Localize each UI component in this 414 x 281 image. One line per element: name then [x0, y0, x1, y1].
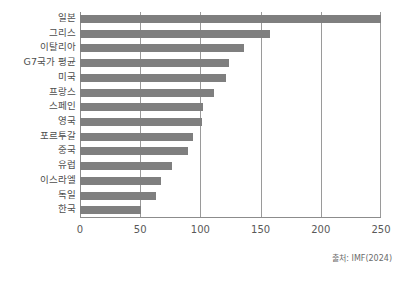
- category-label: 일본: [0, 12, 76, 23]
- category-label: 독일: [0, 189, 76, 200]
- category-label: 이스라엘: [0, 174, 76, 185]
- bar-uk: [80, 118, 202, 126]
- category-label: 이탈리아: [0, 41, 76, 52]
- x-tick-label-100: 100: [191, 223, 210, 236]
- bar-series: [80, 12, 381, 218]
- source-note: 출처: IMF(2024): [332, 253, 392, 264]
- bar-japan: [80, 15, 381, 23]
- bar-row: [80, 27, 381, 42]
- bar-usa: [80, 74, 226, 82]
- bar-row: [80, 159, 381, 174]
- bar-row: [80, 189, 381, 204]
- category-axis-labels: 일본 그리스 이탈리아 G7국가 평균 미국 프랑스 스페인 영국 포르투갈 중…: [0, 12, 76, 218]
- bar-row: [80, 130, 381, 145]
- x-tick-label-0: 0: [77, 223, 83, 236]
- bar-korea: [80, 206, 141, 214]
- bar-germany: [80, 192, 156, 200]
- category-label: 한국: [0, 203, 76, 214]
- bar-italy: [80, 44, 244, 52]
- bar-row: [80, 41, 381, 56]
- x-tick-label-200: 200: [311, 223, 330, 236]
- category-label: 그리스: [0, 27, 76, 38]
- category-label: 영국: [0, 115, 76, 126]
- category-label: 유럽: [0, 159, 76, 170]
- bar-portugal: [80, 133, 193, 141]
- bar-row: [80, 115, 381, 130]
- bar-israel: [80, 177, 161, 185]
- x-tick-label-150: 150: [251, 223, 270, 236]
- bar-row: [80, 71, 381, 86]
- bar-chart: 일본 그리스 이탈리아 G7국가 평균 미국 프랑스 스페인 영국 포르투갈 중…: [0, 0, 414, 281]
- bar-greece: [80, 30, 270, 38]
- bar-g7-average: [80, 59, 229, 67]
- category-label: 중국: [0, 144, 76, 155]
- plot-area: [80, 12, 381, 218]
- category-label: 스페인: [0, 100, 76, 111]
- bar-row: [80, 203, 381, 218]
- category-label: 프랑스: [0, 86, 76, 97]
- x-tick-label-250: 250: [371, 223, 390, 236]
- bar-row: [80, 174, 381, 189]
- bar-row: [80, 12, 381, 27]
- x-tick-label-50: 50: [134, 223, 147, 236]
- category-label: G7국가 평균: [0, 56, 76, 67]
- bar-europe: [80, 162, 172, 170]
- bar-row: [80, 56, 381, 71]
- x-axis-tick-labels: 0 50 100 150 200 250: [0, 223, 414, 239]
- bar-china: [80, 147, 188, 155]
- bar-row: [80, 100, 381, 115]
- bar-france: [80, 89, 214, 97]
- bar-row: [80, 144, 381, 159]
- category-label: 포르투갈: [0, 130, 76, 141]
- bar-row: [80, 86, 381, 101]
- bar-spain: [80, 103, 203, 111]
- category-label: 미국: [0, 71, 76, 82]
